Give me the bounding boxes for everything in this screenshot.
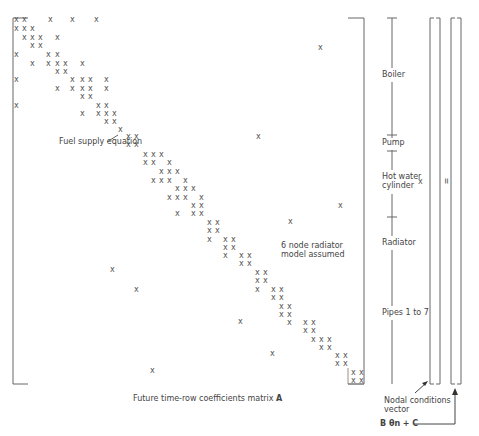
matrix-entry: x	[22, 25, 27, 33]
matrix-entry: x	[175, 168, 180, 176]
matrix-entry: x	[319, 344, 324, 352]
matrix-entry: x	[63, 68, 68, 76]
matrix-entry: x	[14, 76, 19, 84]
matrix-entry: x	[327, 344, 332, 352]
matrix-entry: x	[270, 350, 275, 358]
matrix-entry: x	[191, 185, 196, 193]
matrix-entry: x	[118, 126, 123, 134]
matrix-entry: x	[311, 336, 316, 344]
matrix-entry: x	[14, 102, 19, 110]
matrix-entry: x	[55, 68, 60, 76]
matrix-entry: x	[199, 210, 204, 218]
matrix-entry: x	[288, 218, 293, 226]
matrix-entry: x	[80, 76, 85, 84]
matrix-entry: x	[104, 118, 109, 126]
matrix-entry: x	[70, 16, 75, 24]
matrix-entry: x	[183, 185, 188, 193]
matrix-entry: x	[351, 377, 356, 385]
matrix-entry: x	[271, 294, 276, 302]
matrix-entry: x	[223, 252, 228, 260]
matrix-entry: x	[14, 25, 19, 33]
matrix-entry: x	[46, 51, 51, 59]
matrix-entry: x	[134, 286, 139, 294]
matrix-entry: x	[183, 194, 188, 202]
matrix-entry: x	[70, 76, 75, 84]
matrix-entry: x	[238, 318, 243, 326]
section-label: Pipes 1 to 7	[382, 308, 429, 318]
matrix-entry: x	[239, 260, 244, 268]
matrix-entry: x	[112, 118, 117, 126]
matrix-entry: x	[255, 277, 260, 285]
matrix-entry: x	[151, 177, 156, 185]
matrix-entry: x	[55, 34, 60, 42]
matrix-entry: x	[231, 244, 236, 252]
matrix-entry: x	[207, 236, 212, 244]
matrix-entry: x	[303, 327, 308, 335]
matrix-entry: x	[318, 44, 323, 52]
matrix-entry: x	[279, 294, 284, 302]
section-label: Radiator	[382, 238, 416, 248]
rhs-formula: B θn + C	[380, 419, 418, 429]
matrix-entry: x	[80, 60, 85, 68]
matrix-entry: x	[263, 277, 268, 285]
matrix-entry: x	[167, 194, 172, 202]
matrix-entry: x	[338, 202, 343, 210]
matrix-entry: x	[104, 85, 109, 93]
matrix-entry: x	[88, 76, 93, 84]
matrix-entry: x	[167, 159, 172, 167]
matrix-entry: x	[80, 110, 85, 118]
matrix-entry: x	[343, 360, 348, 368]
matrix-entry: x	[46, 60, 51, 68]
matrix-entry: x	[88, 93, 93, 101]
matrix-entry: x	[159, 177, 164, 185]
matrix-entry: x	[96, 110, 101, 118]
matrix-entry: x	[359, 377, 364, 385]
section-label: Pump	[382, 138, 405, 148]
matrix-entry: x	[335, 360, 340, 368]
matrix-entry: x	[167, 168, 172, 176]
matrix-entry: x	[159, 151, 164, 159]
matrix-entry: x	[38, 42, 43, 50]
radiator-model-line2: model assumed	[281, 250, 345, 260]
matrix-entry: x	[247, 260, 252, 268]
matrix-entry: x	[14, 51, 19, 59]
matrix-entry: x	[191, 210, 196, 218]
matrix-entry: x	[55, 85, 60, 93]
matrix-entry: x	[279, 311, 284, 319]
section-label: cylinder	[382, 181, 414, 191]
matrix-entry: x	[150, 367, 155, 375]
matrix-entry: x	[22, 16, 27, 24]
nodal-label-line2: vector	[384, 405, 409, 415]
equals-sign: =	[441, 178, 451, 185]
matrix-entry: x	[256, 133, 261, 141]
matrix-entry: x	[48, 16, 53, 24]
matrix-entry: x	[22, 34, 27, 42]
fuel-supply-label: Fuel supply equation	[59, 137, 142, 147]
matrix-entry: x	[151, 159, 156, 167]
matrix-caption: Future time-row coefficients matrix A	[133, 394, 282, 404]
matrix-entry: x	[175, 185, 180, 193]
matrix-entry: x	[143, 159, 148, 167]
matrix-entry: x	[311, 327, 316, 335]
matrix-entry: x	[255, 286, 260, 294]
matrix-entry: x	[30, 42, 35, 50]
matrix-entry: x	[55, 51, 60, 59]
matrix-entry: x	[207, 227, 212, 235]
matrix-entry: x	[70, 85, 75, 93]
matrix-entry: x	[110, 266, 115, 274]
diagram-lines	[0, 0, 479, 436]
matrix-entry: x	[215, 227, 220, 235]
matrix-entry: x	[30, 60, 35, 68]
matrix-entry: x	[80, 93, 85, 101]
matrix-entry: x	[287, 319, 292, 327]
matrix-entry: x	[175, 210, 180, 218]
matrix-entry: x	[159, 168, 164, 176]
matrix-entry: x	[94, 16, 99, 24]
section-label: Boiler	[382, 70, 405, 80]
matrix-entry: x	[104, 76, 109, 84]
matrix-entry: x	[175, 194, 180, 202]
matrix-entry: x	[167, 177, 172, 185]
matrix-entry: x	[14, 16, 19, 24]
matrix-entry: x	[30, 25, 35, 33]
